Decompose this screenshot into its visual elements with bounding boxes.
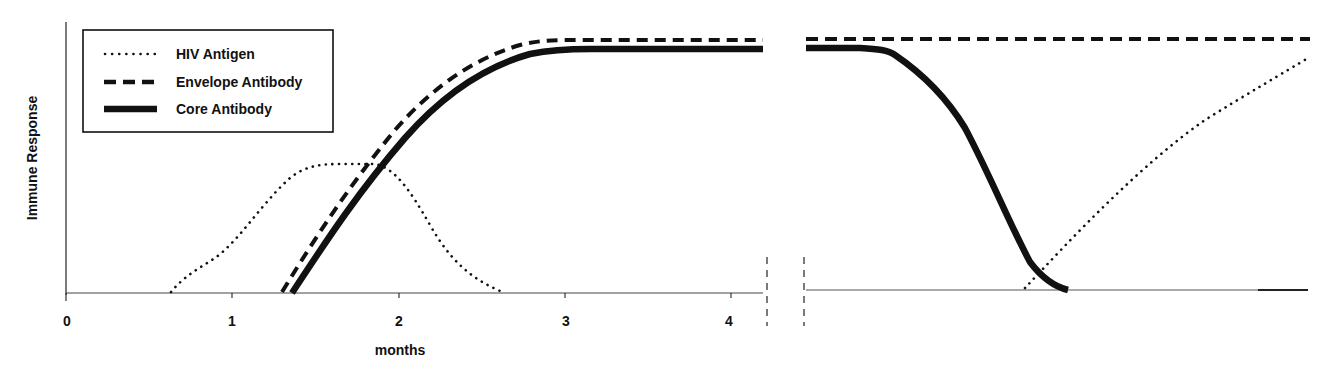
x-tick-label-3: 3	[562, 313, 570, 329]
x-axis-label: months	[375, 342, 426, 358]
series-envelope-antibody-left	[282, 40, 763, 292]
series-hiv-antigen-right	[1025, 58, 1308, 288]
x-tick-label-0: 0	[63, 313, 71, 329]
legend-label-core-antibody: Core Antibody	[176, 101, 272, 117]
series-core-antibody-right	[806, 48, 1068, 290]
y-axis-label: Immune Response	[24, 96, 40, 221]
x-tick-label-1: 1	[228, 313, 236, 329]
legend: HIV Antigen Envelope Antibody Core Antib…	[83, 30, 333, 132]
x-tick-label-4: 4	[725, 313, 733, 329]
legend-label-hiv-antigen: HIV Antigen	[176, 46, 255, 62]
x-ticks	[66, 293, 731, 301]
legend-label-envelope-antibody: Envelope Antibody	[176, 74, 302, 90]
x-tick-label-2: 2	[395, 313, 403, 329]
chart: Immune Response 0 1 2 3 4 months HIV Ant…	[0, 0, 1324, 370]
